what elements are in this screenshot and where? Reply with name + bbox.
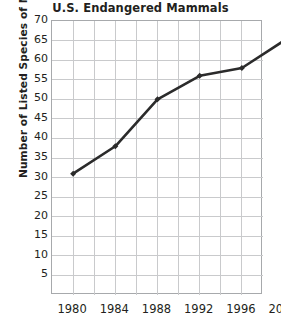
y-tick-label: 60 bbox=[2, 54, 48, 64]
chart-container: U.S. Endangered Mammals Number of Listed… bbox=[0, 0, 281, 334]
y-tick-label: 25 bbox=[2, 191, 48, 201]
y-tick-label: 30 bbox=[2, 172, 48, 182]
y-axis-tick-labels: 706560555045403530252015105 bbox=[0, 0, 48, 334]
y-tick-label: 50 bbox=[2, 93, 48, 103]
y-tick-label: 15 bbox=[2, 230, 48, 240]
plot-area bbox=[51, 20, 262, 294]
y-tick-label: 20 bbox=[2, 211, 48, 221]
y-tick-label: 55 bbox=[2, 74, 48, 84]
y-tick-label: 40 bbox=[2, 132, 48, 142]
y-tick-label: 35 bbox=[2, 152, 48, 162]
data-series-line bbox=[52, 21, 263, 295]
x-tick-label: 2000 bbox=[253, 302, 281, 316]
x-axis-tick-labels: 198019841988199219962000 bbox=[0, 302, 281, 324]
y-tick-label: 10 bbox=[2, 250, 48, 260]
y-tick-label: 65 bbox=[2, 35, 48, 45]
y-tick-label: 70 bbox=[2, 15, 48, 25]
y-tick-label: 45 bbox=[2, 113, 48, 123]
y-tick-label: 5 bbox=[2, 269, 48, 279]
